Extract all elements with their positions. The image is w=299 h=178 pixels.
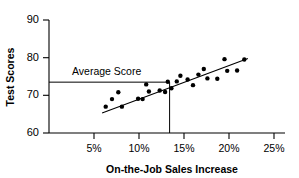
chart-canvas: Test Scores 90 80 70 60 5% 10% 15% 20% xyxy=(0,0,299,178)
data-point xyxy=(205,76,209,80)
data-point xyxy=(169,86,173,90)
y-tick-label-70: 70 xyxy=(27,88,39,100)
data-point xyxy=(202,67,206,71)
data-point xyxy=(175,79,179,83)
x-tick-group: 5% 10% 15% 20% 25% xyxy=(86,133,284,154)
data-point xyxy=(215,77,219,81)
y-tick-label-90: 90 xyxy=(27,13,39,25)
y-tick-label-60: 60 xyxy=(27,126,39,138)
data-point xyxy=(235,68,239,72)
x-tick-label-25: 25% xyxy=(263,142,284,154)
x-tick-label-15: 15% xyxy=(173,142,194,154)
x-tick-label-5: 5% xyxy=(86,142,101,154)
data-point xyxy=(158,88,162,92)
data-point xyxy=(144,82,148,86)
y-tick-group: 90 80 70 60 xyxy=(27,13,49,138)
data-point xyxy=(222,57,226,61)
data-point xyxy=(104,104,108,108)
data-point xyxy=(147,89,151,93)
average-score-label: Average Score xyxy=(72,65,141,77)
data-point xyxy=(178,74,182,78)
data-point xyxy=(120,104,124,108)
data-point xyxy=(196,72,200,76)
data-point xyxy=(116,90,120,94)
data-point xyxy=(110,97,114,101)
data-point xyxy=(140,97,144,101)
y-axis-title: Test Scores xyxy=(4,47,16,106)
data-point xyxy=(136,97,140,101)
data-point xyxy=(242,57,246,61)
scatter-chart: Test Scores 90 80 70 60 5% 10% 15% 20% xyxy=(0,0,299,178)
x-axis-title: On-the-Job Sales Increase xyxy=(106,163,238,175)
x-tick-label-10: 10% xyxy=(128,142,149,154)
y-tick-label-80: 80 xyxy=(27,51,39,63)
data-point xyxy=(225,69,229,73)
data-point xyxy=(185,77,189,81)
data-point xyxy=(166,80,170,84)
x-tick-label-20: 20% xyxy=(218,142,239,154)
data-point xyxy=(163,90,167,94)
data-point xyxy=(191,83,195,87)
